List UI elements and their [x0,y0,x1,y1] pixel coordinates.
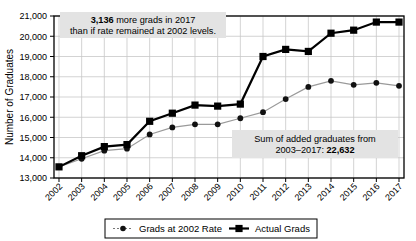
data-point [169,110,176,117]
data-point [260,109,266,115]
y-tick-label: 15,000 [19,133,47,143]
x-tick-label: 2014 [315,181,336,202]
data-point [146,118,153,125]
x-tick-label: 2011 [248,181,269,202]
data-point [350,27,357,34]
legend-label-2: Actual Grads [255,223,310,234]
graduates-chart: 13,00014,00015,00016,00017,00018,00019,0… [0,0,416,241]
y-tick-label: 21,000 [19,11,47,21]
legend-marker-square [235,225,242,232]
data-point [55,163,62,170]
x-tick-label: 2010 [225,181,246,202]
y-tick-label: 20,000 [19,32,47,42]
data-point [78,152,85,159]
data-point [396,83,402,89]
data-point [214,103,221,110]
x-tick-label: 2006 [134,181,155,202]
y-tick-label: 17,000 [19,92,47,102]
x-tick-label: 2013 [293,181,314,202]
x-axis-labels: 2002200320042005200620072008200920102011… [43,178,404,203]
data-point [123,141,130,148]
data-point [101,143,108,150]
data-point [328,78,334,84]
data-point [192,121,198,127]
data-point [169,124,175,130]
data-point [351,82,357,88]
data-point [237,115,243,121]
y-axis-title: Number of Graduates [4,49,15,145]
annotation-line-2: 2003–2017: 22,632 [275,145,354,155]
x-tick-label: 2008 [179,181,200,202]
x-tick-label: 2004 [89,181,110,202]
y-tick-label: 18,000 [19,72,47,82]
x-tick-label: 2007 [157,181,178,202]
data-point [305,48,312,55]
x-tick-label: 2017 [383,181,404,202]
y-tick-label: 19,000 [19,52,47,62]
data-point [259,53,266,60]
chart-canvas: 13,00014,00015,00016,00017,00018,00019,0… [0,0,416,241]
data-point [327,30,334,37]
annotation-line-2: than if rate remained at 2002 levels. [70,26,216,36]
x-tick-label: 2002 [43,181,64,202]
x-tick-label: 2005 [111,181,132,202]
data-point [395,18,402,25]
data-point [305,84,311,90]
y-tick-label: 16,000 [19,113,47,123]
x-tick-label: 2003 [66,181,87,202]
legend-marker-circle [120,226,126,232]
annotation-line-1: 3,136 more grads in 2017 [91,15,196,25]
y-tick-label: 14,000 [19,153,47,163]
data-point [147,132,153,138]
x-tick-label: 2012 [270,181,291,202]
y-tick-label: 13,000 [19,173,47,183]
data-point [237,100,244,107]
data-point [373,18,380,25]
annotation-line-1: Sum of added graduates from [254,134,376,144]
data-point [373,80,379,86]
data-point [191,102,198,109]
x-tick-label: 2016 [361,181,382,202]
x-tick-label: 2015 [338,181,359,202]
data-point [283,96,289,102]
x-tick-label: 2009 [202,181,223,202]
data-point [215,121,221,127]
legend-label-1: Grads at 2002 Rate [139,223,222,234]
data-point [282,46,289,53]
